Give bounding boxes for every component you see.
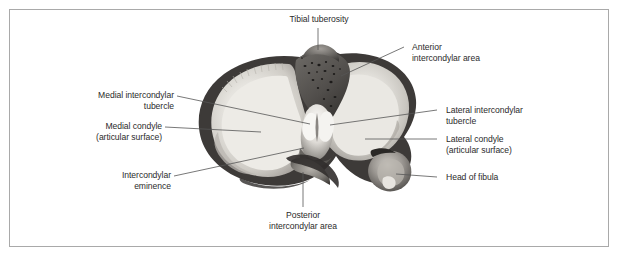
label-lateral-intercondylar-tubercle: Lateral intercondylar tubercle bbox=[446, 105, 581, 126]
label-medial-condyle: Medial condyle (articular surface) bbox=[48, 121, 162, 142]
bone-drawing bbox=[199, 45, 416, 192]
label-medial-intercondylar-tubercle: Medial intercondylar tubercle bbox=[48, 90, 174, 111]
label-anterior-intercondylar-area: Anterior intercondylar area bbox=[412, 42, 527, 63]
figure-root: Tibial tuberosity Anterior intercondylar… bbox=[0, 0, 625, 259]
label-intercondylar-eminence: Intercondylar eminence bbox=[48, 170, 171, 191]
label-lateral-condyle: Lateral condyle (articular surface) bbox=[446, 134, 581, 155]
label-head-of-fibula: Head of fibula bbox=[446, 172, 566, 183]
label-posterior-intercondylar-area: Posterior intercondylar area bbox=[237, 210, 369, 231]
label-tibial-tuberosity: Tibial tuberosity bbox=[255, 14, 383, 25]
